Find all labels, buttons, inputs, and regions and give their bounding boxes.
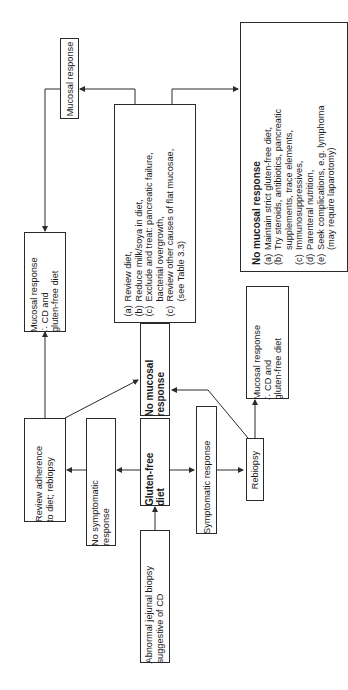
node-line: No mucosal <box>144 323 155 416</box>
node-line: Mucosal response <box>29 232 40 332</box>
node-abnormal-biopsy: Abnormal jejunal biopsy suggestive of CD <box>140 530 170 663</box>
list-item: (b)Try steroids, antibiotics, pancreatic <box>273 29 284 265</box>
node-line: Symptomatic response <box>201 406 212 534</box>
node-title: No mucosal response <box>252 29 263 265</box>
list-item: (b)Reduce milk/soya in diet, <box>134 111 145 316</box>
node-mucosal-response-top: Mucosal response <box>60 38 79 119</box>
node-line: Review adherence <box>34 418 45 522</box>
node-mucosal-response-cd-left: Mucosal response ∴ CD and gluten-free di… <box>24 232 66 332</box>
node-no-mucosal-response-mid: No mucosal response <box>140 323 170 416</box>
list-item: supplements, trace elements, <box>283 29 294 265</box>
node-line: Mucosal response <box>252 286 263 399</box>
node-review-diet-actions: (a)Review diet, (b)Reduce milk/soya in d… <box>114 104 196 323</box>
node-line: Gluten-free <box>144 418 155 506</box>
node-line: to diet; rebiopsy <box>45 418 56 522</box>
node-symptomatic-response: Symptomatic response <box>196 406 217 534</box>
list-item: (may require laparotomy) <box>326 29 337 265</box>
node-no-symptomatic-response: No symptomatic response <box>86 418 116 546</box>
node-mucosal-response-cd-right: Mucosal response ∴ CD and gluten-free di… <box>246 286 289 399</box>
list-item: (c)Exclude and treat: pancreatic failure… <box>144 111 155 316</box>
node-line: response <box>155 323 166 416</box>
node-line: Mucosal response <box>64 38 75 119</box>
node-line: ∴ CD and <box>262 286 273 399</box>
list-item: (c)Review other causes of flat mucosae, <box>166 111 177 316</box>
list-item: (d)Parenteral nutrition, <box>305 29 316 265</box>
node-line: diet <box>155 418 166 506</box>
list-item: (a)Maintain strict gluten-free diet, <box>262 29 273 265</box>
node-line: gluten-free diet <box>273 286 284 399</box>
node-line: response <box>101 418 112 546</box>
node-line: gluten-free diet <box>50 232 61 332</box>
node-no-mucosal-response-final: No mucosal response (a)Maintain strict g… <box>240 22 348 272</box>
list-item: (e)Seek complications, e.g. lymphoma <box>315 29 326 265</box>
node-rebiopsy: Rebiopsy <box>246 438 264 501</box>
list-item: (c)Immunosuppressives, <box>294 29 305 265</box>
list-item: bacterial overgrowth, <box>155 111 166 316</box>
node-line: suggestive of CD <box>155 530 166 663</box>
node-line: ∴ CD and <box>40 232 51 332</box>
node-line: Rebiopsy <box>250 438 261 501</box>
node-line: Abnormal jejunal biopsy <box>144 530 155 663</box>
list-item: (a)Review diet, <box>123 111 134 316</box>
node-gluten-free-diet: Gluten-free diet <box>140 418 170 506</box>
node-line: No symptomatic <box>90 418 101 546</box>
node-review-adherence: Review adherence to diet; rebiopsy <box>24 418 66 522</box>
list-item: (see Table 3.3) <box>176 111 187 316</box>
